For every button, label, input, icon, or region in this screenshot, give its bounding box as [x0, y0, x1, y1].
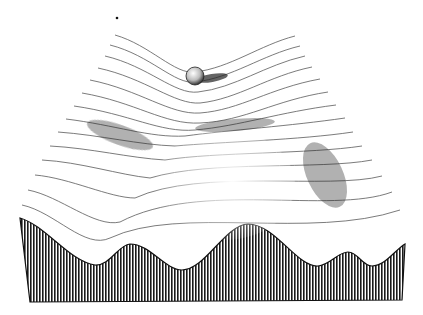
central-hill	[155, 130, 295, 240]
landscape-engraving	[0, 0, 423, 315]
ball	[186, 67, 204, 85]
illustration-canvas	[0, 0, 423, 315]
ink-dot	[116, 17, 119, 20]
